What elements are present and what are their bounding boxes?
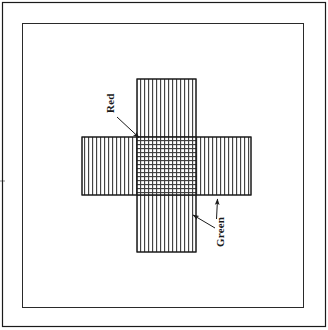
label-red: Red (104, 93, 116, 113)
label-green: Green (214, 217, 226, 247)
figure-page: Red Green (0, 0, 328, 330)
cross-hatch-diagram: Red Green (0, 0, 328, 330)
overlap-region (137, 137, 196, 195)
